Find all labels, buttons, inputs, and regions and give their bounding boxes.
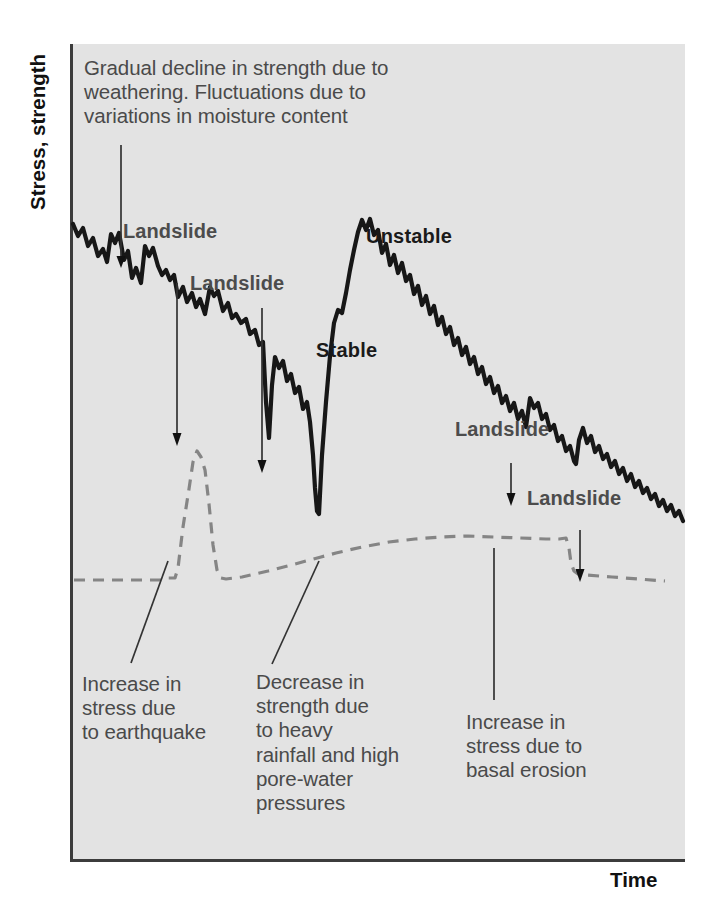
x-axis-label: Time	[610, 868, 657, 892]
annotation-rainfall-note: Decrease in strength due to heavy rainfa…	[256, 670, 436, 815]
label-unstable: Unstable	[366, 225, 452, 249]
label-landslide-1: Landslide	[123, 220, 217, 244]
annotation-basal-erosion-note: Increase in stress due to basal erosion	[466, 710, 641, 783]
label-landslide-4: Landslide	[527, 487, 621, 511]
annotation-top-note: Gradual decline in strength due to weath…	[84, 56, 404, 129]
y-axis-label: Stress, strength	[26, 32, 50, 232]
annotation-earthquake-note: Increase in stress due to earthquake	[82, 672, 252, 745]
label-stable: Stable	[316, 339, 377, 363]
landslide-stress-strength-figure: Gradual decline in strength due to weath…	[0, 0, 715, 912]
label-landslide-2: Landslide	[190, 272, 284, 296]
label-landslide-3: Landslide	[455, 418, 549, 442]
